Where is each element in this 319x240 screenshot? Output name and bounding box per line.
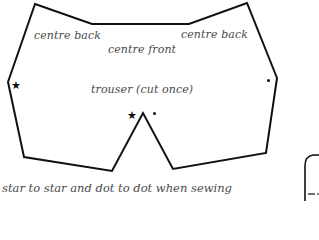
star-marker-left-icon: ★ [11, 79, 21, 92]
label-centre-front: centre front [108, 44, 176, 55]
star-marker-center-icon: ★ [127, 109, 137, 122]
label-centre-back-left: centre back [34, 30, 101, 41]
dot-marker-center-icon [153, 112, 156, 115]
label-piece-name: trouser (cut once) [91, 84, 193, 95]
label-centre-back-right: centre back [181, 29, 248, 40]
dot-marker-right-icon [267, 79, 270, 82]
sewing-instruction-caption: star to star and dot to dot when sewing [2, 183, 232, 195]
